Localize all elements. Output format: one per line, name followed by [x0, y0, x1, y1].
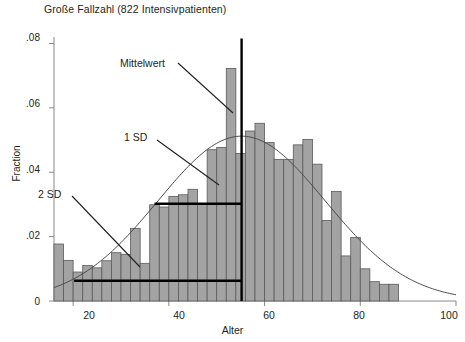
histogram-figure: Große Fallzahl (822 Intensivpatienten) F… — [0, 0, 465, 342]
histogram-bar — [150, 205, 160, 301]
histogram-bar — [312, 164, 322, 301]
histogram-bar — [188, 189, 198, 301]
histogram-bar — [207, 150, 217, 301]
histogram-bar — [64, 260, 74, 301]
histogram-bar — [370, 282, 380, 301]
histogram-bar — [121, 254, 131, 301]
plot-canvas — [0, 0, 465, 342]
histogram-bar — [255, 123, 265, 301]
leader-line-mittelwert — [178, 63, 233, 113]
histogram-bar — [284, 159, 294, 301]
histogram-bar — [265, 143, 275, 301]
histogram-bar — [351, 238, 361, 301]
histogram-bar — [198, 203, 208, 301]
histogram-bars — [54, 69, 399, 301]
histogram-bar — [111, 253, 121, 301]
histogram-bar — [341, 256, 351, 301]
histogram-bar — [293, 145, 303, 301]
histogram-bar — [226, 69, 236, 301]
histogram-bar — [217, 147, 227, 301]
histogram-bar — [92, 268, 102, 301]
histogram-bar — [332, 192, 342, 301]
histogram-bar — [322, 221, 332, 301]
histogram-bar — [131, 229, 141, 301]
x-tick-marks — [73, 301, 456, 306]
histogram-bar — [303, 139, 313, 301]
histogram-bar — [178, 195, 188, 301]
histogram-bar — [360, 269, 370, 301]
histogram-bar — [245, 131, 255, 301]
y-tick-marks — [49, 43, 54, 301]
histogram-bar — [389, 284, 399, 301]
histogram-bar — [379, 284, 389, 301]
histogram-bar — [159, 207, 169, 301]
histogram-bar — [274, 159, 284, 301]
histogram-bar — [169, 196, 179, 301]
histogram-bar — [140, 263, 150, 301]
histogram-bar — [54, 244, 64, 301]
